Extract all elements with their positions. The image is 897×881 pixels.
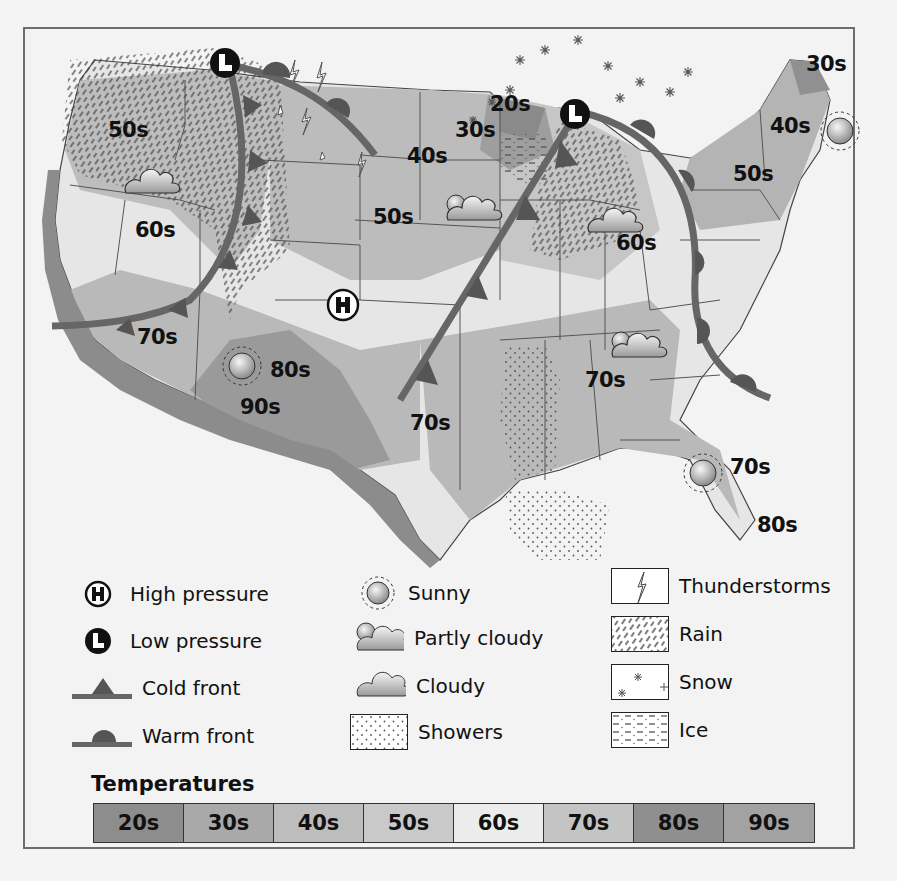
legend-item-sunny: Sunny [358,575,471,611]
sunny-icon-florida [684,454,722,492]
temp-band-30s: 30s [184,804,274,842]
cloudy-icon [354,670,406,702]
rain-icon [611,616,669,652]
map-temperature-label: 70s [730,455,770,479]
showers-area-gulf [505,490,610,560]
map-temperature-label: 60s [135,218,175,242]
legend-item-thunderstorms: Thunderstorms [611,568,831,604]
map-temperature-label: 70s [137,325,177,349]
map-temperature-label: 70s [410,411,450,435]
sunny-icon [358,575,398,611]
legend-label: Cold front [142,676,240,700]
map-temperature-label: 50s [733,162,773,186]
legend-item-rain: Rain [611,616,723,652]
map-temperature-label: 20s [490,92,530,116]
legend-label: Rain [679,622,723,646]
snow-icon [611,664,669,700]
map-temperature-label: 40s [407,144,447,168]
map-temperature-label: 70s [585,368,625,392]
legend-item-cold-front: Cold front [72,674,240,702]
temperature-scale: 20s 30s 40s 50s 60s 70s 80s 90s [93,803,815,843]
low-pressure-marker-great-lakes [560,99,590,129]
warm-front-icon [72,722,132,750]
temp-band-80s: 80s [634,804,724,842]
legend-label: Cloudy [416,674,485,698]
ice-icon [611,712,669,748]
showers-icon [350,714,408,750]
legend-item-low-pressure: Low pressure [84,627,262,655]
map-temperature-label: 80s [757,513,797,537]
legend-item-high-pressure: High pressure [84,580,269,608]
legend-item-ice: Ice [611,712,708,748]
temp-band-50s: 50s [364,804,454,842]
legend-label: Warm front [142,724,254,748]
legend-item-cloudy: Cloudy [354,670,485,702]
legend-item-snow: Snow [611,664,733,700]
high-pressure-marker [328,290,358,320]
map-temperature-label: 60s [616,231,656,255]
map-temperature-label: 50s [373,205,413,229]
temp-band-70s: 70s [544,804,634,842]
legend-label: Low pressure [130,629,262,653]
map-temperature-label: 30s [455,118,495,142]
low-pressure-marker-west [210,48,240,78]
cold-front-icon [72,674,132,702]
temp-band-90s: 90s [724,804,814,842]
high-pressure-icon [84,580,112,608]
map-temperature-label: 50s [108,118,148,142]
map-temperature-label: 80s [270,358,310,382]
legend-label: Snow [679,670,733,694]
temp-band-60s: 60s [454,804,544,842]
low-pressure-icon [84,627,112,655]
legend-item-showers: Showers [350,714,503,750]
legend-label: Thunderstorms [679,574,831,598]
sunny-icon-maine [821,112,859,150]
legend-label: Showers [418,720,503,744]
legend-label: Ice [679,718,708,742]
sunny-icon-arizona [223,347,261,385]
temperatures-title: Temperatures [91,772,255,796]
partly-cloudy-icon [352,620,404,656]
thunderstorms-icon [611,568,669,604]
legend-label: High pressure [130,582,269,606]
legend-item-partly-cloudy: Partly cloudy [352,620,543,656]
legend-label: Sunny [408,581,471,605]
map-temperature-label: 90s [240,395,280,419]
map-temperature-label: 40s [770,114,810,138]
temp-band-20s: 20s [94,804,184,842]
map-temperature-label: 30s [806,52,846,76]
temp-band-40s: 40s [274,804,364,842]
legend-item-warm-front: Warm front [72,722,254,750]
legend-label: Partly cloudy [414,626,543,650]
